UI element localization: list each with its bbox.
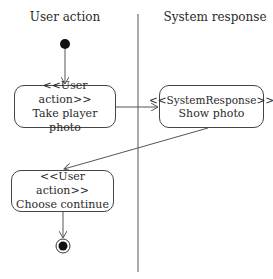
stereotype-label: <<User action>>: [12, 170, 113, 198]
action-label: Show photo: [179, 107, 245, 121]
lane-title-system: System response: [160, 10, 270, 24]
stereotype-label: <<SystemResponse>>: [149, 93, 273, 107]
lane-title-user: User action: [20, 10, 110, 24]
action-label: Take player photo: [15, 107, 115, 135]
action-label: Choose continue: [16, 198, 109, 212]
diagram-canvas: [0, 0, 273, 279]
action-show-photo: <<SystemResponse>> Show photo: [159, 85, 264, 128]
action-choose-continue: <<User action>> Choose continue: [11, 170, 114, 212]
action-take-player-photo: <<User action>> Take player photo: [14, 85, 116, 128]
final-node-dot: [59, 242, 68, 251]
stereotype-label: <<User action>>: [15, 79, 115, 107]
initial-node: [60, 39, 70, 49]
